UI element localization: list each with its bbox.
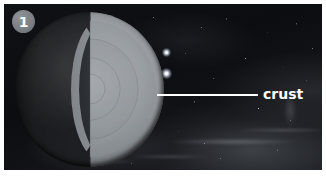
figure-photo: 1 crust bbox=[4, 4, 322, 170]
earth-cutaway-globe bbox=[14, 12, 164, 167]
step-number-label: 1 bbox=[19, 15, 29, 29]
step-number-badge: 1 bbox=[12, 10, 35, 33]
callout-crust-leader-line bbox=[157, 94, 258, 96]
callout-crust-label: crust bbox=[263, 87, 303, 101]
figure-root: 1 crust bbox=[0, 0, 326, 177]
globe-sphere bbox=[14, 12, 164, 167]
interior-layers-diagram bbox=[14, 12, 164, 167]
callout-crust: crust bbox=[157, 88, 303, 102]
